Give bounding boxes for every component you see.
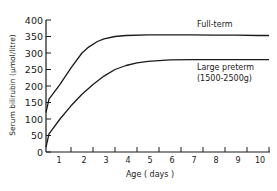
y-tick-label: 250	[25, 64, 43, 75]
series-labels: Full-termLarge preterm(1500-2500g)	[197, 20, 254, 83]
x-tick-label: 9	[235, 156, 240, 165]
large-preterm-label: Large preterm	[197, 63, 254, 72]
y-tick-label: 0	[37, 147, 43, 158]
x-tick-label: 10	[255, 156, 265, 165]
x-tick-label: 7	[191, 156, 196, 165]
y-tick-label: 350	[25, 31, 43, 42]
curves	[46, 35, 269, 147]
x-tick-label: 5	[147, 156, 152, 165]
y-tick-label: 150	[25, 97, 43, 108]
x-tick-label: 2	[81, 156, 86, 165]
x-axis-label: Age ( days )	[126, 170, 174, 179]
x-tick-label: 3	[103, 156, 108, 165]
y-tick-label: 100	[25, 114, 43, 125]
large-preterm-curve	[46, 60, 269, 147]
x-tick-label: 4	[125, 156, 130, 165]
large-preterm-label: (1500-2500g)	[197, 74, 252, 83]
y-tick-label: 200	[25, 81, 43, 92]
x-tick-label: 6	[169, 156, 174, 165]
x-tick-label: 8	[213, 156, 218, 165]
full-term-label: Full-term	[197, 20, 233, 29]
y-axis-label: Serum bilirubin (μmol/litre)	[8, 34, 17, 136]
x-tick-label: 1	[56, 156, 61, 165]
bilirubin-chart: 05010015020025030035040012345678910 Full…	[0, 0, 277, 191]
chart-svg: 05010015020025030035040012345678910 Full…	[0, 0, 277, 191]
y-tick-label: 400	[25, 15, 43, 26]
axes: 05010015020025030035040012345678910	[25, 15, 270, 166]
y-tick-label: 50	[31, 130, 43, 141]
y-tick-label: 300	[25, 48, 43, 59]
